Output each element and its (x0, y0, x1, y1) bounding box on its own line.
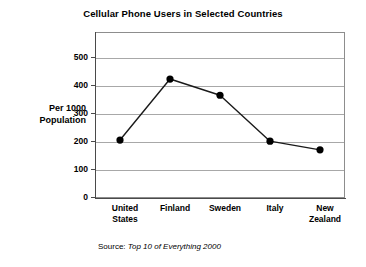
x-tick-label-line1: New (294, 203, 356, 214)
data-point-new-zealand (316, 146, 323, 153)
y-tick-label-300: 300 (62, 109, 88, 118)
data-series-layer (95, 32, 345, 198)
x-axis-spine (95, 198, 346, 199)
y-tick-label-100: 100 (62, 165, 88, 174)
line-series-cellular-phone-users (95, 32, 345, 198)
data-point-united-states (116, 136, 123, 143)
x-tick-label-new-zealand: New Zealand (294, 203, 356, 224)
y-tick-label-400: 400 (62, 81, 88, 90)
source-label: Source: (98, 242, 126, 251)
y-tick-label-500: 500 (62, 53, 88, 62)
data-point-sweden (216, 92, 223, 99)
source-publication: Top 10 of Everything 2000 (128, 242, 221, 251)
chart-title: Cellular Phone Users in Selected Countri… (0, 8, 366, 19)
y-tick-label-0: 0 (62, 193, 88, 202)
data-point-finland (166, 75, 173, 82)
y-tick-label-200: 200 (62, 137, 88, 146)
data-point-italy (266, 138, 273, 145)
series-markers (116, 75, 323, 153)
series-line (120, 79, 320, 150)
chart-figure: Cellular Phone Users in Selected Countri… (0, 0, 366, 267)
source-note: Source: Top 10 of Everything 2000 (98, 242, 221, 251)
x-tick-label-line2: Zealand (294, 214, 356, 225)
x-tick-label-line2: States (94, 214, 156, 225)
